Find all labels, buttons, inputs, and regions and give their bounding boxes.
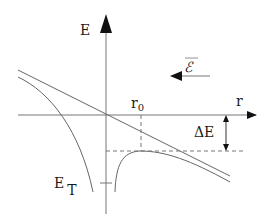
energy-axis-label: E (80, 22, 90, 38)
delta-e-label: ΔE (194, 124, 214, 140)
r-axis-label: r (236, 93, 243, 109)
field-arrow-icon (170, 71, 182, 81)
potential-energy-diagram: E r ℰ r0 ΔE ET (0, 0, 268, 223)
r0-label: r0 (131, 95, 144, 113)
electric-field-indicator: ℰ (170, 58, 210, 81)
delta-e-indicator (223, 115, 229, 151)
field-symbol: ℰ (184, 59, 194, 75)
combined-potential-curve (115, 151, 230, 192)
et-label: ET (54, 175, 77, 198)
field-potential-line (18, 70, 230, 176)
